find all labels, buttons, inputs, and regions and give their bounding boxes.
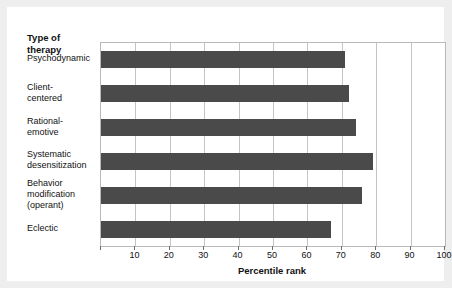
gridline bbox=[273, 43, 274, 246]
gridline bbox=[135, 43, 136, 246]
x-axis-tick-label: 10 bbox=[129, 250, 139, 260]
category-label-line: modification bbox=[27, 189, 99, 200]
x-axis-tick-label: 30 bbox=[198, 250, 208, 260]
x-axis-tick bbox=[100, 246, 101, 250]
category-label: Systematicdesensitization bbox=[27, 149, 99, 171]
category-label-line: Eclectic bbox=[27, 223, 99, 234]
bar bbox=[101, 187, 362, 204]
category-label: Client-centered bbox=[27, 82, 99, 104]
x-axis-tick-label: 80 bbox=[370, 250, 380, 260]
category-label-line: desensitization bbox=[27, 160, 99, 171]
category-axis-title: Type of therapy bbox=[27, 32, 99, 55]
x-axis-tick-label: 40 bbox=[233, 250, 243, 260]
x-axis-title: Percentile rank bbox=[100, 265, 444, 276]
gridline bbox=[204, 43, 205, 246]
category-axis-title-line-1: Type of bbox=[27, 32, 99, 44]
gridline bbox=[342, 43, 343, 246]
category-label-line: (operant) bbox=[27, 200, 99, 211]
gridline bbox=[239, 43, 240, 246]
bar bbox=[101, 51, 345, 68]
category-label: Rational-emotive bbox=[27, 116, 99, 138]
bar bbox=[101, 153, 373, 170]
x-axis-tick-label: 70 bbox=[336, 250, 346, 260]
category-label: Eclectic bbox=[27, 223, 99, 234]
bar bbox=[101, 221, 331, 238]
x-axis-tick-label: 60 bbox=[301, 250, 311, 260]
x-axis-tick-label: 90 bbox=[405, 250, 415, 260]
gridline bbox=[170, 43, 171, 246]
category-label-line: centered bbox=[27, 93, 99, 104]
category-label-line: Psychodynamic bbox=[27, 53, 99, 64]
bar bbox=[101, 85, 349, 102]
category-label-line: Client- bbox=[27, 82, 99, 93]
plot-area bbox=[100, 42, 446, 247]
gridline bbox=[307, 43, 308, 246]
gridline bbox=[411, 43, 412, 246]
chart-figure: Type of therapy PsychodynamicClient-cent… bbox=[7, 7, 444, 281]
x-axis-tick-label: 20 bbox=[164, 250, 174, 260]
bar bbox=[101, 119, 356, 136]
category-label-line: Rational- bbox=[27, 116, 99, 127]
category-label-line: Systematic bbox=[27, 149, 99, 160]
category-label: Psychodynamic bbox=[27, 53, 99, 64]
x-axis-tick-label: 50 bbox=[267, 250, 277, 260]
gridlines bbox=[101, 43, 445, 246]
category-label: Behaviormodification(operant) bbox=[27, 178, 99, 211]
x-axis-tick-label: 100 bbox=[436, 250, 451, 260]
gridline bbox=[376, 43, 377, 246]
category-label-line: emotive bbox=[27, 127, 99, 138]
category-label-line: Behavior bbox=[27, 178, 99, 189]
